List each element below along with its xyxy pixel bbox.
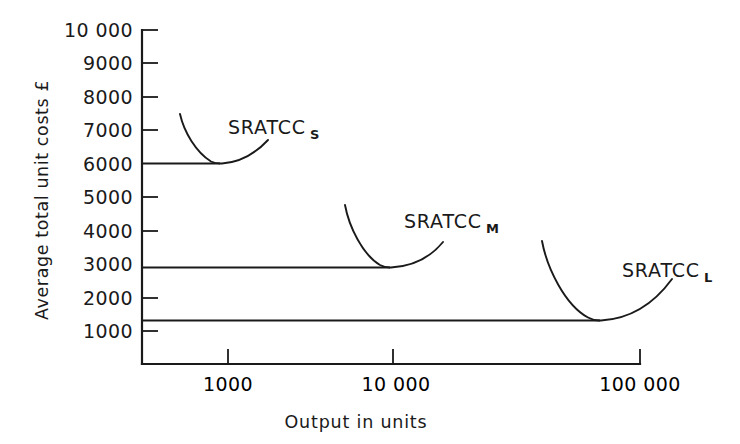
series-label-sratcc-s-text: SRATCC: [228, 116, 306, 138]
x-axis-ticks: [228, 349, 640, 364]
axes: [142, 30, 640, 364]
y-tick-label-1000: 1000: [83, 320, 133, 342]
y-tick-labels: 10 000 9000 8000 7000 6000 5000 4000 300…: [64, 19, 133, 342]
series-annotations: SRATCC S SRATCC M SRATCC L: [228, 116, 713, 285]
series-label-sratcc-l-sub: L: [704, 270, 713, 285]
x-tick-labels: 1000 10 000 100 000: [203, 373, 681, 395]
x-tick-label-100000: 100 000: [599, 373, 680, 395]
y-tick-label-7000: 7000: [83, 119, 133, 141]
y-tick-label-6000: 6000: [83, 153, 133, 175]
plateau-lines: [142, 164, 600, 321]
series-label-sratcc-m: SRATCC M: [404, 210, 500, 236]
y-tick-label-8000: 8000: [83, 86, 133, 108]
cost-curves-chart: Average total unit costs £ 10 000 9000 8…: [0, 0, 740, 444]
y-tick-label-10000: 10 000: [64, 19, 133, 41]
x-axis-label: Output in units: [285, 412, 428, 432]
series-label-sratcc-l: SRATCC L: [622, 259, 713, 285]
x-tick-label-1000: 1000: [203, 373, 253, 395]
series-label-sratcc-s-sub: S: [310, 127, 320, 142]
x-tick-label-10000: 10 000: [362, 373, 431, 395]
chart-svg: Average total unit costs £ 10 000 9000 8…: [0, 0, 740, 444]
series-label-sratcc-m-text: SRATCC: [404, 210, 482, 232]
y-tick-label-2000: 2000: [83, 287, 133, 309]
series-label-sratcc-s: SRATCC S: [228, 116, 320, 142]
series-label-sratcc-l-text: SRATCC: [622, 259, 700, 281]
y-axis-label-group: Average total unit costs £: [32, 80, 52, 320]
y-tick-label-9000: 9000: [83, 52, 133, 74]
series-label-sratcc-m-sub: M: [486, 221, 500, 236]
y-axis-label: Average total unit costs £: [32, 80, 52, 320]
y-tick-label-4000: 4000: [83, 220, 133, 242]
y-axis-ticks: [142, 30, 158, 331]
y-tick-label-3000: 3000: [83, 253, 133, 275]
y-tick-label-5000: 5000: [83, 186, 133, 208]
